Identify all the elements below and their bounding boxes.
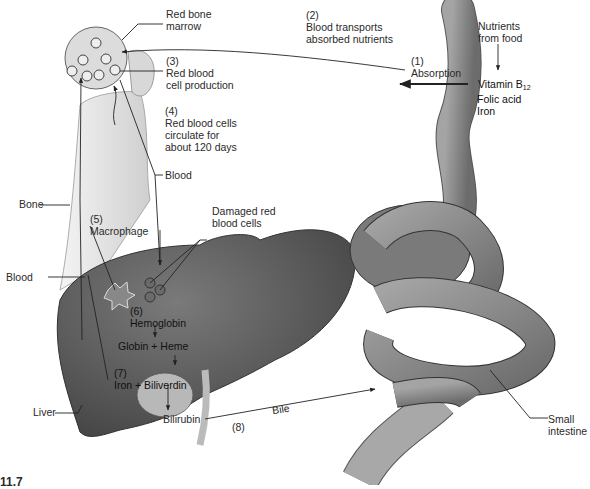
figure-number-fragment: 11.7: [0, 476, 23, 488]
label-line: Red bone: [166, 8, 212, 20]
label-nutrients: Nutrients from food: [478, 20, 522, 44]
step-number: (3): [166, 55, 234, 67]
label-iron-nutrient: Iron: [477, 105, 495, 117]
label-blood-left: Blood: [6, 271, 33, 283]
label-line: Blood transports: [306, 21, 393, 33]
label-line: absorbed nutrients: [306, 33, 393, 45]
label-step-5: (5) Macrophage: [90, 213, 148, 237]
label-line: Absorption: [411, 67, 461, 79]
label-line: Nutrients: [478, 20, 522, 32]
label-line: Red blood cells: [165, 117, 237, 129]
label-step-3: (3) Red blood cell production: [166, 55, 234, 91]
label-small-intestine: Small intestine: [548, 413, 587, 437]
label-step-4: (4) Red blood cells circulate for about …: [165, 105, 237, 153]
label-line: Iron + Biliverdin: [114, 379, 187, 391]
label-line: from food: [478, 32, 522, 44]
damaged-rbc-icon: [145, 292, 155, 302]
subscript: 12: [523, 84, 531, 91]
label-damaged-rbc: Damaged red blood cells: [212, 205, 276, 229]
label-line: Small: [548, 413, 587, 425]
label-line: Vitamin B: [478, 78, 523, 90]
step-number: (2): [306, 9, 393, 21]
label-step-7: (7) Iron + Biliverdin: [114, 367, 187, 391]
label-line: blood cells: [212, 217, 276, 229]
label-red-bone-marrow: Red bone marrow: [166, 8, 212, 32]
label-folic-acid: Folic acid: [477, 93, 521, 105]
label-blood-upper: Blood: [165, 169, 192, 181]
label-line: cell production: [166, 79, 234, 91]
label-vitamin-b12: Vitamin B12: [478, 78, 531, 94]
label-step-1: (1) Absorption: [411, 55, 461, 79]
step-number: (4): [165, 105, 237, 117]
label-globin-heme: Globin + Heme: [118, 340, 188, 352]
label-step-2: (2) Blood transports absorbed nutrients: [306, 9, 393, 45]
red-bone-marrow-illustration: [65, 27, 127, 89]
label-line: circulate for: [165, 129, 237, 141]
step-number: (5): [90, 213, 148, 225]
step-number: (7): [114, 367, 187, 379]
label-bone: Bone: [19, 198, 44, 210]
step-number: (6): [130, 305, 186, 317]
step-number: (1): [411, 55, 461, 67]
label-line: marrow: [166, 20, 212, 32]
label-line: intestine: [548, 425, 587, 437]
label-line: Macrophage: [90, 225, 148, 237]
label-step-8-num: (8): [232, 421, 245, 433]
label-liver: Liver: [33, 406, 56, 418]
label-line: Hemoglobin: [130, 317, 186, 329]
label-step-6: (6) Hemoglobin: [130, 305, 186, 329]
label-bilirubin: Bilirubin: [163, 413, 200, 425]
label-line: Damaged red: [212, 205, 276, 217]
label-line: Red blood: [166, 67, 234, 79]
label-line: about 120 days: [165, 141, 237, 153]
